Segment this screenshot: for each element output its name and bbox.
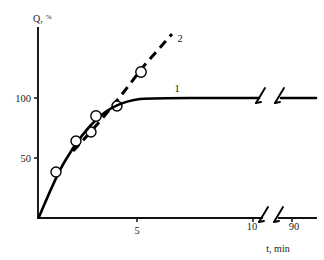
curve-1-data-point <box>51 167 61 177</box>
chart-canvas: Q,% 100 50 5 10 90 t, min 1 2 <box>0 0 324 260</box>
x-axis-break-right-tail <box>274 221 279 222</box>
y-axis-title: Q,% <box>33 13 52 24</box>
curve-1-break-left-tail <box>256 102 261 103</box>
curve-1-break-right-icon <box>275 88 284 103</box>
curve-1-break-left-icon <box>256 88 265 103</box>
x-axis-break-marks <box>259 207 283 222</box>
x-axis-break-right-icon <box>274 207 283 222</box>
curve-1-markers <box>51 111 101 177</box>
curve-1-break-right-tail <box>275 102 280 103</box>
x-axis-break-left-icon <box>259 207 268 222</box>
x-axis-title: t, min <box>266 243 289 254</box>
y-axis-title-unit: % <box>46 13 52 21</box>
y-tick-label-50: 50 <box>21 153 32 164</box>
curve-1-label: 1 <box>174 83 179 94</box>
curve-1-break-marks <box>256 88 284 103</box>
curve-2-data-point <box>136 67 146 77</box>
figure-root: Q,% 100 50 5 10 90 t, min 1 2 <box>0 0 324 260</box>
x-tick-label-10: 10 <box>247 221 258 232</box>
x-tick-label-90: 90 <box>289 221 300 232</box>
x-axis-break-left-tail <box>259 221 264 222</box>
curve-1-solid-line <box>39 98 259 217</box>
x-tick-label-5: 5 <box>134 225 139 236</box>
y-tick-label-100: 100 <box>15 93 31 104</box>
curve-2-label: 2 <box>177 33 182 44</box>
curve-1-data-point <box>71 136 81 146</box>
curve-1-data-point <box>91 111 101 121</box>
y-axis-title-symbol: Q, <box>33 13 43 24</box>
axis-group <box>38 28 316 218</box>
